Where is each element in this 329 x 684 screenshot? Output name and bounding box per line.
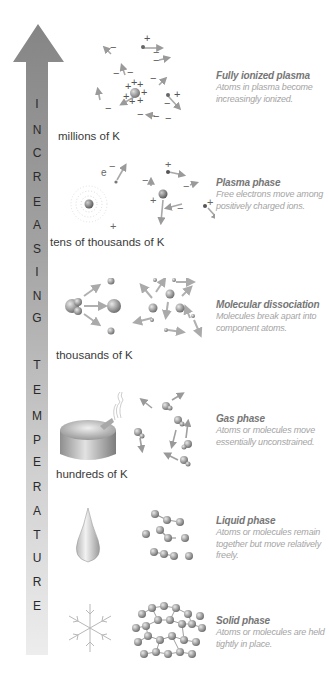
phase-title: Molecular dissociation — [216, 299, 328, 311]
phase-description: Atoms or molecules remain together but m… — [216, 527, 328, 562]
axis-letter: E — [26, 600, 48, 612]
axis-letter: S — [26, 243, 48, 255]
svg-text:−: − — [109, 162, 115, 172]
phase-plasma: Plasma phase Free electrons move among p… — [216, 177, 328, 212]
svg-text:+: + — [207, 196, 213, 208]
svg-text:+: + — [144, 32, 150, 44]
svg-text:−: − — [177, 202, 183, 214]
phase-title: Plasma phase — [216, 177, 328, 189]
plasma-phase-illustration-icon: e − + − − + − + + — [65, 162, 215, 234]
phase-description: Molecules break apart into component ato… — [216, 311, 328, 334]
axis-letter: N — [26, 124, 48, 136]
phase-title: Liquid phase — [216, 515, 328, 527]
phase-fully-ionized-plasma: Fully ionized plasma Atoms in plasma bec… — [216, 70, 328, 105]
temperature-label-tens-of-thousands: tens of thousands of K — [50, 236, 164, 248]
axis-letter: G — [26, 312, 48, 324]
svg-text:−: − — [137, 108, 143, 120]
axis-letter: P — [26, 434, 48, 446]
svg-text:−: − — [127, 66, 133, 78]
axis-letter: T — [26, 529, 48, 541]
liquid-phase-illustration-icon — [70, 504, 210, 566]
svg-text:−: − — [164, 97, 170, 109]
svg-text:+: + — [174, 88, 180, 100]
ionized-plasma-illustration-icon: +++ ++++ ++ −−− −−− −−−− − — [95, 30, 205, 130]
phase-liquid: Liquid phase Atoms or molecules remain t… — [216, 515, 328, 562]
axis-letter: U — [26, 552, 48, 564]
svg-text:−: − — [153, 110, 159, 122]
svg-text:+: + — [150, 194, 156, 206]
svg-text:−: − — [183, 180, 189, 192]
phase-description: Atoms in plasma become increasingly ioni… — [216, 82, 328, 105]
temperature-label-thousands: thousands of K — [56, 349, 133, 361]
phase-title: Fully ionized plasma — [216, 70, 328, 82]
temperature-label-millions: millions of K — [58, 130, 120, 142]
phase-description: Atoms or molecules are held tightly in p… — [216, 627, 328, 650]
solid-phase-illustration-icon — [66, 596, 212, 660]
svg-text:+: + — [129, 95, 135, 107]
phase-description: Atoms or molecules move essentially unco… — [216, 425, 328, 448]
axis-letter: N — [26, 290, 48, 302]
svg-text:−: − — [153, 54, 159, 66]
phase-gas: Gas phase Atoms or molecules move essent… — [216, 413, 328, 448]
axis-letter: A — [26, 219, 48, 231]
axis-letter: A — [26, 505, 48, 517]
axis-letter: R — [26, 576, 48, 588]
phase-description: Free electrons move among positively cha… — [216, 189, 328, 212]
svg-text:+: + — [165, 162, 171, 170]
molecular-dissociation-illustration-icon — [60, 278, 210, 340]
svg-text:e: e — [101, 167, 107, 178]
axis-letter: E — [26, 196, 48, 208]
axis-letter: R — [26, 171, 48, 183]
gas-phase-illustration-icon — [58, 392, 208, 472]
axis-letter: E — [26, 384, 48, 396]
svg-text:−: − — [110, 41, 116, 53]
svg-text:−: − — [150, 72, 156, 84]
axis-letter: I — [26, 98, 48, 110]
phase-title: Gas phase — [216, 413, 328, 425]
phase-solid: Solid phase Atoms or molecules are held … — [216, 615, 328, 650]
axis-letter: T — [26, 359, 48, 371]
svg-text:−: − — [142, 174, 148, 186]
svg-text:+: + — [110, 220, 116, 232]
svg-text:−: − — [105, 102, 111, 114]
svg-text:+: + — [137, 94, 143, 106]
svg-text:−: − — [113, 67, 119, 79]
axis-letter: I — [26, 266, 48, 278]
axis-letter: R — [26, 481, 48, 493]
axis-letter: E — [26, 456, 48, 468]
svg-text:−: − — [165, 112, 171, 124]
axis-letter: C — [26, 147, 48, 159]
axis-letter: M — [26, 410, 48, 422]
phase-molecular-dissociation: Molecular dissociation Molecules break a… — [216, 299, 328, 334]
phase-title: Solid phase — [216, 615, 328, 627]
